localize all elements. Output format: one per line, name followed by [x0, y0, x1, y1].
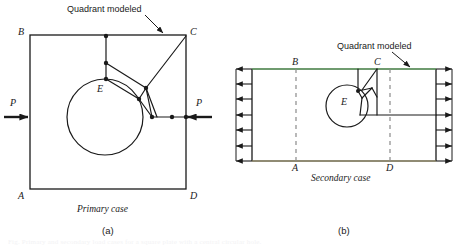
figure-canvas [0, 0, 466, 247]
load-label-left-a: P [10, 97, 16, 108]
plate-outline-a [30, 35, 186, 189]
mesh-nodes-b [356, 89, 360, 93]
figure-footer-caption: Fig. Primary and secondary load cases fo… [8, 238, 262, 246]
quadrant-mesh-b [358, 69, 436, 115]
vertex-label-c-a: C [190, 26, 197, 37]
note-leader-b [392, 52, 410, 67]
vertex-label-e-b: E [341, 96, 347, 107]
panel-id-b: (b) [338, 225, 350, 236]
caption-primary-case: Primary case [77, 204, 128, 214]
vertex-label-b-a: B [18, 26, 24, 37]
vertex-label-c-b: C [374, 56, 381, 67]
vertex-label-d-b: D [386, 162, 393, 173]
caption-secondary-case: Secondary case [311, 173, 370, 183]
note-quadrant-modeled-a: Quadrant modeled [67, 4, 142, 14]
note-leader-a [145, 15, 163, 33]
central-hole-a [67, 79, 143, 155]
mesh-nodes-a [104, 34, 188, 119]
vertex-label-a-a: A [18, 190, 24, 201]
quadrant-mesh-a [106, 36, 186, 117]
vertex-label-d-a: D [190, 190, 197, 201]
tension-arrows-right-b [436, 69, 452, 161]
vertex-label-b-b: B [292, 56, 298, 67]
tension-arrows-left-b [236, 69, 252, 161]
panel-id-a: (a) [102, 225, 114, 236]
panel-a-drawing [4, 15, 212, 189]
note-quadrant-modeled-b: Quadrant modeled [337, 41, 412, 51]
load-label-right-a: P [196, 97, 202, 108]
vertex-label-e-a: E [97, 83, 103, 94]
figure-root: Quadrant modeled B C A D E P P Primary c… [0, 0, 466, 247]
vertex-label-a-b: A [292, 162, 298, 173]
